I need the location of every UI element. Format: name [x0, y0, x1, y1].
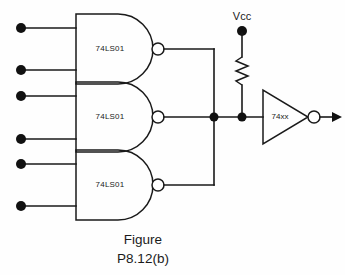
wired-or-junction-dot: [210, 113, 219, 122]
input-terminal-1a[interactable]: [16, 23, 26, 33]
input-terminal-3b[interactable]: [16, 201, 26, 211]
output-arrow-icon: [332, 112, 342, 122]
inverter-1[interactable]: 74xx: [263, 90, 342, 144]
gate-3[interactable]: 74LS01: [16, 117, 214, 220]
vcc-branch: Vcc: [233, 10, 252, 122]
gate-3-label: 74LS01: [96, 180, 125, 189]
input-terminal-2b[interactable]: [16, 134, 26, 144]
gate-1-output-bubble: [152, 43, 164, 55]
caption-line-1: Figure: [124, 232, 162, 247]
pull-up-junction-dot: [238, 113, 247, 122]
input-terminal-3a[interactable]: [16, 159, 26, 169]
inverter-output-bubble: [308, 111, 320, 123]
circuit-schematic: 74LS01 74LS01 74LS01: [0, 0, 345, 275]
gate-2-label: 74LS01: [96, 112, 125, 121]
input-terminal-2a[interactable]: [16, 91, 26, 101]
gate-3-output-bubble: [152, 179, 164, 191]
caption-line-2: P8.12(b): [117, 251, 169, 266]
vcc-label: Vcc: [233, 10, 252, 22]
gate-1[interactable]: 74LS01: [16, 14, 214, 117]
gate-1-label: 74LS01: [96, 44, 125, 53]
schematic-canvas: 74LS01 74LS01 74LS01: [0, 0, 345, 275]
gate-2-output-bubble: [152, 111, 164, 123]
figure-caption: Figure P8.12(b): [117, 232, 169, 266]
inverter-label: 74xx: [272, 112, 289, 121]
pull-up-resistor-symbol: [236, 57, 248, 85]
input-terminal-1b[interactable]: [16, 65, 26, 75]
gate-2[interactable]: 74LS01: [16, 82, 263, 152]
